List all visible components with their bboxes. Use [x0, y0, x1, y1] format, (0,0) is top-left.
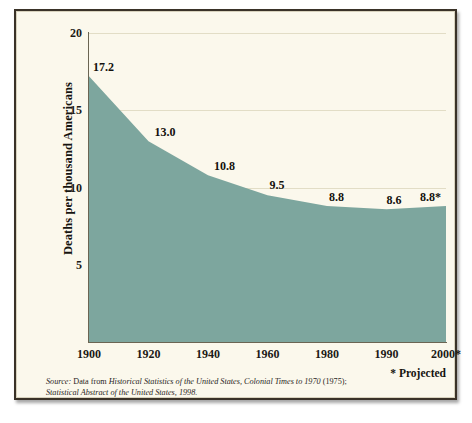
- x-tick-label-1990: 1990: [375, 347, 399, 362]
- chart-figure: Deaths per thousand Americans 5101520 19…: [0, 0, 472, 423]
- x-tick-label-2000star: 2000*: [431, 347, 461, 362]
- data-label-1940: 10.8: [214, 159, 235, 174]
- x-tick-label-1940: 1940: [196, 347, 220, 362]
- source-note: Source: Data from Historical Statistics …: [46, 377, 376, 398]
- source-title-1: Historical Statistics of the United Stat…: [109, 377, 321, 386]
- data-label-1990: 8.6: [387, 193, 402, 208]
- data-label-1920: 13.0: [155, 125, 176, 140]
- x-axis-line: [88, 342, 447, 343]
- x-tick-label-1920: 1920: [137, 347, 161, 362]
- y-tick-label-20: 20: [42, 27, 82, 39]
- y-tick-label-5: 5: [42, 259, 82, 271]
- source-text-1: Data from: [71, 377, 109, 386]
- x-tick-label-1960: 1960: [256, 347, 280, 362]
- source-label: Source:: [46, 377, 71, 386]
- y-axis-ticks: 5101520: [38, 11, 82, 423]
- plot-area: [89, 33, 446, 342]
- chart-frame: Deaths per thousand Americans 5101520 19…: [14, 9, 457, 400]
- source-title-2: Statistical Abstract of the United State…: [46, 388, 197, 397]
- data-label-1960: 9.5: [270, 178, 285, 193]
- x-tick-label-1900: 1900: [77, 347, 101, 362]
- y-tick-label-15: 15: [42, 104, 82, 116]
- source-text-2: (1975);: [321, 377, 347, 386]
- area-series-death-rate: [89, 33, 446, 342]
- data-label-1900: 17.2: [93, 60, 114, 75]
- data-label-2000star: 8.8*: [420, 190, 441, 205]
- y-tick-label-10: 10: [42, 182, 82, 194]
- data-label-1980: 8.8: [329, 190, 344, 205]
- x-tick-label-1980: 1980: [315, 347, 339, 362]
